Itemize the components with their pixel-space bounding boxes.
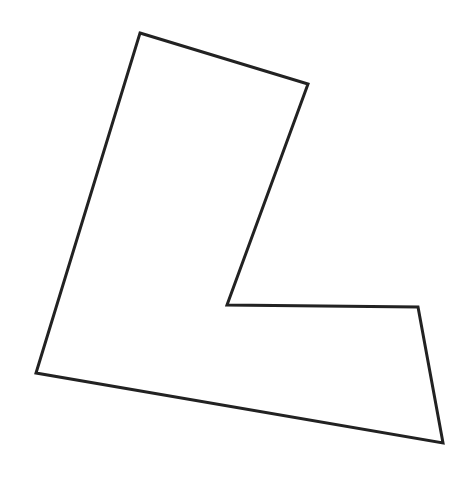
- diagram-canvas: [0, 0, 475, 479]
- l-shaped-polygon: [36, 33, 443, 443]
